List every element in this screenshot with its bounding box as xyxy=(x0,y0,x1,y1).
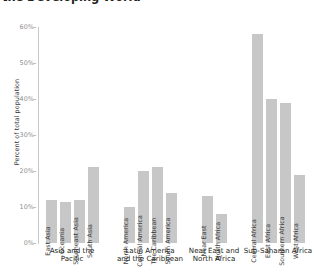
y-tick-mark xyxy=(33,243,36,244)
y-tick-mark xyxy=(33,207,36,208)
bar-group: Central AfricaEast AfricaSouthern Africa… xyxy=(250,27,306,243)
bar-category-label-text: Southern Africa xyxy=(278,216,285,265)
bar-chart: the Developing World Percent of total po… xyxy=(0,0,314,273)
y-tick-mark xyxy=(33,99,36,100)
bar-category-label: Southern Africa xyxy=(280,161,291,241)
bar-group: North AmericaCentral AmericaThe Caribbea… xyxy=(122,27,178,243)
bar-category-label: The Caribbean xyxy=(152,161,163,241)
group-label-line-1: Sub-Saharan Africa xyxy=(228,247,314,255)
bar-category-label: South America xyxy=(166,161,177,241)
bar-category-label: North America xyxy=(124,161,135,241)
bar-category-label: Oceania xyxy=(60,161,71,241)
y-tick-mark xyxy=(33,135,36,136)
bar-category-label: Central America xyxy=(138,161,149,241)
y-tick-label: 30% xyxy=(8,131,34,139)
group-label-line-2: North Africa xyxy=(164,255,264,263)
bar-category-label: Near East xyxy=(202,161,213,241)
y-tick-label: 0% xyxy=(8,239,34,247)
y-tick-label: 60% xyxy=(8,23,34,31)
y-tick-mark xyxy=(33,27,36,28)
y-tick-mark xyxy=(33,171,36,172)
plot-area: East AsiaOceaniaSoutheast AsiaSouth Asia… xyxy=(39,27,314,243)
bar-category-label: South Asia xyxy=(88,161,99,241)
group-label: Sub-Saharan Africa xyxy=(228,247,314,255)
y-axis-ticks: 0%10%20%30%40%50%60% xyxy=(0,0,34,273)
chart-title: the Developing World xyxy=(2,0,312,4)
bar-category-label: East Asia xyxy=(46,161,57,241)
y-tick-label: 10% xyxy=(8,203,34,211)
bar-category-label: East Africa xyxy=(266,161,277,241)
y-tick-label: 40% xyxy=(8,95,34,103)
y-tick-label: 50% xyxy=(8,59,34,67)
bar-group: East AsiaOceaniaSoutheast AsiaSouth Asia xyxy=(44,27,100,243)
bar-group: Near EastNorth Africa xyxy=(200,27,228,243)
y-tick-mark xyxy=(33,63,36,64)
bar-category-label: Central Africa xyxy=(252,161,263,241)
bar-category-label: Southeast Asia xyxy=(74,161,85,241)
bar-category-label: West Africa xyxy=(294,161,305,241)
bar-category-label: North Africa xyxy=(216,161,227,241)
y-tick-label: 20% xyxy=(8,167,34,175)
